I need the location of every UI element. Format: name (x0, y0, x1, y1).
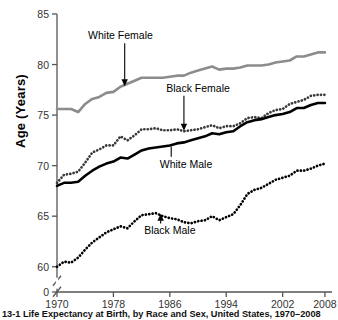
figure-caption: 13-1 Life Expectancy at Birth, by Race a… (2, 309, 338, 320)
figure-container: Age (Years) 6065707580850197019781986199… (0, 0, 338, 320)
y-tick-label-zero: 0 (43, 286, 49, 298)
annotation-label-white-female: White Female (88, 29, 153, 41)
y-tick-label: 60 (37, 261, 49, 273)
series-white-male (57, 103, 325, 186)
annotation-label-black-female: Black Female (166, 82, 230, 94)
annotations-layer: White FemaleBlack FemaleWhite MaleBlack … (88, 29, 230, 236)
y-tick-label: 80 (37, 59, 49, 71)
y-tick-label: 75 (37, 109, 49, 121)
life-expectancy-line-chart: 6065707580850197019781986199420022008 Wh… (0, 0, 338, 320)
y-tick-label: 70 (37, 160, 49, 172)
series-black-male (57, 164, 325, 267)
y-tick-label: 85 (37, 8, 49, 20)
annotation-label-white-male: White Male (160, 158, 213, 170)
y-tick-label: 65 (37, 210, 49, 222)
annotation-label-black-male: Black Male (144, 224, 196, 236)
